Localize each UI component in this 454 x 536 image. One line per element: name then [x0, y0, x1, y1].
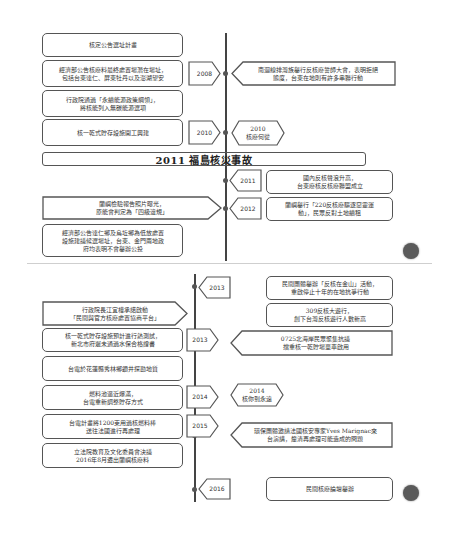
timeline-node	[223, 130, 228, 135]
timeline-node	[223, 71, 228, 76]
year-tag-2008: 2008	[188, 61, 221, 86]
fukushima-banner: 2011 福島核災事故	[42, 152, 366, 166]
event-box: 蘭嶼舉行「220反核廢驅逐惡靈運 動」，民眾反對土地續租	[266, 197, 393, 221]
event-text: 南迴線排灣族舉行反核廢誓師大會，表明拒絕 態度，台東在地則有許多串聯行動	[250, 66, 378, 82]
timeline-node	[192, 284, 197, 289]
event-box: 經濟部公告達仁鄉及烏坵鄉為低放處置 設施建議候選場址，台東、金門兩地政 府均表明…	[42, 224, 183, 257]
year-tag-2010: 2010	[188, 120, 221, 145]
event-hexagon: 2014 核你到永遠	[230, 383, 284, 407]
event-arrow-box: 蘭嶼檢驗報告照片曝光， 原能會判定為「四級違規」	[42, 196, 222, 220]
event-arrow-box: 南迴線排灣族舉行反核廢誓師大會，表明拒絕 態度，台東在地則有許多串聯行動	[231, 61, 396, 86]
event-text: 2010 核廢何從	[246, 125, 270, 141]
event-text: 行政院長江宜樺承諾啟動 「民間與官方核廢處置協商平台」	[70, 306, 160, 322]
event-arrow-box: 行政院長江宜樺承諾啟動 「民間與官方核廢處置協商平台」	[42, 301, 188, 326]
event-box: 台電於花蓮縣秀林鄉鑽井探勘地質	[42, 356, 183, 381]
event-box: 經濟部公告核廢料最終處置場潛在場址， 包括台東達仁、屏東牡丹以及澎湖望安	[42, 60, 183, 87]
event-box: 核一乾式貯存設施開工興建	[42, 119, 183, 146]
event-text: 0725北海岸民眾聚集抗議 擋重核一乾貯場單車啟用	[273, 335, 350, 351]
page-marker-circle	[403, 243, 419, 259]
event-box: 核定公告選址計畫	[42, 33, 183, 57]
event-box: 行政院通過「永續能源政策綱領」， 將核能列入無碳能源選項	[42, 90, 183, 117]
timeline-node	[223, 206, 228, 211]
event-arrow-box: 環保團體邀請法國核安專家Yves Marignac來 台演講，釐清再處理可能造成…	[230, 422, 393, 448]
year-tag-2012: 2012	[229, 197, 262, 220]
timeline-node	[223, 178, 228, 183]
event-text: 2014 核你到永遠	[242, 387, 272, 403]
event-box: 台電計畫將1200束用過核燃料棒 送往法國進行再處理	[42, 414, 183, 439]
top-timeline-axis	[225, 33, 227, 261]
year-tag-2013: 2013	[186, 328, 219, 352]
year-tag-2011: 2011	[229, 169, 262, 192]
event-hexagon: 2010 核廢何從	[231, 120, 285, 146]
event-box: 國內反核聲浪升高， 台東廢核反核廢聯盟成立	[266, 170, 393, 194]
year-tag-2014: 2014	[186, 385, 219, 409]
page-marker-circle	[403, 485, 419, 501]
event-box: 立法院教育及文化委員會決議 2016年8月遷出蘭嶼核廢料	[42, 443, 183, 468]
event-box: 核一乾式貯存設施預計進行熱測試， 新北市府遲未通過水保合格證書	[42, 328, 183, 352]
event-box: 燃料池逼近爆滿， 台電重新調整貯存方式	[42, 385, 183, 410]
year-tag-2015: 2015	[186, 414, 219, 438]
event-text: 環保團體邀請法國核安專家Yves Marignac來 台演講，釐清再處理可能造成…	[246, 427, 377, 443]
year-tag-2013: 2013	[198, 276, 231, 299]
event-box: 民間團體舉辦「反核在金山」活動， 重啟停止十年的在地抗爭行動	[266, 276, 393, 300]
event-box: 民間核廢論壇舉辦	[266, 477, 393, 501]
timeline-node	[192, 487, 197, 492]
event-arrow-box: 0725北海岸民眾聚集抗議 擋重核一乾貯場單車啟用	[230, 330, 393, 356]
event-text: 蘭嶼檢驗報告照片曝光， 原能會判定為「四級違規」	[96, 200, 168, 216]
year-tag-2016: 2016	[198, 478, 231, 500]
event-box: 309反核大遊行， 創下台灣反核遊行人數新高	[266, 303, 393, 327]
